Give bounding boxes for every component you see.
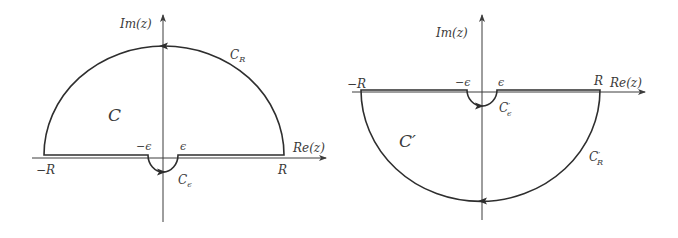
right-small-arc-label-sub: ϵ [507, 109, 512, 118]
left-large-arc-label-sub: R [238, 55, 245, 64]
left-small-arc-label: Cϵ [178, 173, 192, 189]
right-real-axis-label: Re(z) [609, 76, 642, 90]
left-large-arc-label-base: C [230, 48, 239, 62]
right-large-arc-label-sub: R [596, 158, 603, 167]
left-pos-eps-label: ϵ [180, 140, 186, 153]
right-region-label: C′ [399, 131, 416, 151]
left-panel: Im(z) Re(z) −R R −ϵ ϵ C CR Cϵ [32, 15, 326, 222]
right-pos-eps-label: ϵ [498, 76, 504, 89]
contour-diagram: Im(z) Re(z) −R R −ϵ ϵ C CR Cϵ Im(z) Re(z… [0, 0, 678, 238]
right-neg-eps-label: −ϵ [455, 76, 470, 89]
left-small-arc-label-base: C [178, 173, 187, 187]
left-contour-path [44, 46, 284, 172]
right-pos-R-label: R [593, 74, 603, 88]
right-imag-axis-label: Im(z) [435, 26, 468, 40]
right-large-arc-label: C′R [589, 150, 603, 167]
left-neg-R-label: −R [36, 163, 55, 177]
right-neg-R-label: −R [347, 77, 366, 91]
left-pos-R-label: R [277, 163, 287, 177]
left-small-arc-label-sub: ϵ [187, 180, 192, 189]
right-small-arc-label: C′ϵ [499, 101, 512, 118]
left-real-axis-label: Re(z) [292, 141, 325, 155]
right-small-arc-arrow-icon [475, 103, 484, 110]
left-region-label: C [108, 105, 121, 125]
right-panel: Im(z) Re(z) −R R −ϵ ϵ C′ C′R C′ϵ [347, 15, 645, 220]
left-imag-axis-label: Im(z) [119, 17, 152, 31]
left-large-arc-label: CR [230, 48, 245, 64]
left-neg-eps-label: −ϵ [136, 140, 151, 153]
